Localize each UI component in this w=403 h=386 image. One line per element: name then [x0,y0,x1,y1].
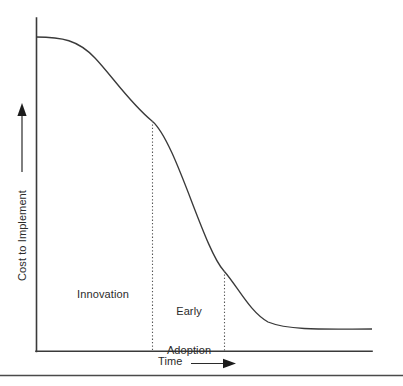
y-axis-label: Cost to Implement [0,175,44,295]
diffusion-cost-curve-figure: Cost to Implement Time Innovation Early … [0,0,403,386]
y-axis-arrow-icon [17,103,26,172]
phase-label-innovation: Innovation [60,288,146,301]
phase-label-early-adoption-line2: Adoption [158,344,220,357]
phase-label-early-adoption: Early Adoption [158,279,220,383]
phase-label-early-adoption-line1: Early [158,305,220,318]
y-axis-label-text: Cost to Implement [16,190,29,281]
